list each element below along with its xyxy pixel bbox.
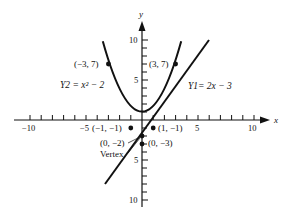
vertex-label: Vertex (100, 149, 124, 159)
x-axis: −10 −5 5 10 x (14, 115, 278, 133)
equation-y1: Y1= 2x − 3 (188, 81, 232, 91)
y-axis-arrow-icon (139, 21, 146, 31)
y-tick-label: 5 (134, 155, 138, 165)
x-axis-label: x (273, 115, 278, 125)
point-label: (1, −1) (158, 123, 183, 133)
point-marker (106, 62, 111, 67)
graph-canvas: −10 −5 5 10 x (0, 0, 294, 219)
point-marker (173, 62, 178, 67)
equation-y2: Y2 = x² − 2 (60, 80, 104, 90)
point-label: (−1, −1) (92, 123, 122, 133)
y-axis-label: y (138, 9, 143, 19)
x-tick-label: 5 (195, 123, 199, 133)
point-marker (140, 134, 145, 139)
point-label: (0, −2) (100, 138, 125, 148)
y-tick-label: 10 (129, 195, 138, 205)
point-marker (140, 142, 145, 147)
x-tick-label: 10 (248, 123, 257, 133)
y-tick-label: 5 (134, 75, 138, 85)
x-axis-arrow-icon (260, 117, 270, 124)
x-tick-label: −5 (80, 123, 89, 133)
point-label: (−3, 7) (74, 59, 99, 69)
y-tick-label: 10 (129, 35, 138, 45)
x-tick-label: −10 (22, 123, 35, 133)
point-label: (3, 7) (149, 59, 169, 69)
point-marker (128, 126, 133, 131)
point-marker (151, 126, 156, 131)
point-label: (0, −3) (148, 138, 173, 148)
